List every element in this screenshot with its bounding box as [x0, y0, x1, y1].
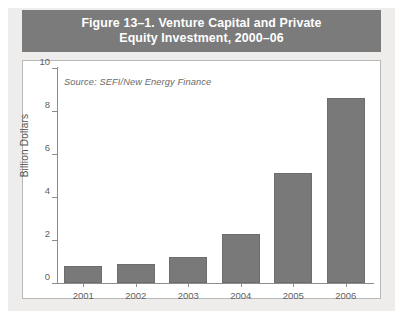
x-tick-label: 2001 [57, 290, 109, 301]
y-tick-label: 6 [26, 142, 50, 153]
x-tick-label: 2006 [320, 290, 372, 301]
x-tick-mark [346, 283, 347, 287]
bar [117, 264, 155, 283]
x-tick-mark [136, 283, 137, 287]
y-tick-mark [52, 283, 57, 284]
bar [64, 266, 102, 283]
x-tick-label: 2005 [267, 290, 319, 301]
figure-screenshot: Figure 13–1. Venture Capital and Private… [0, 0, 403, 326]
bar [169, 257, 207, 283]
figure-title-line-2: Equity Investment, 2000–06 [119, 31, 283, 46]
x-tick-mark [188, 283, 189, 287]
x-tick-mark [293, 283, 294, 287]
y-tick-label: 8 [26, 99, 50, 110]
x-tick-label: 2004 [215, 290, 267, 301]
y-tick-label: 0 [26, 271, 50, 282]
x-tick-label: 2003 [162, 290, 214, 301]
x-tick-label: 2002 [110, 290, 162, 301]
x-axis-line [57, 283, 374, 284]
figure-title-line-1: Figure 13–1. Venture Capital and Private [81, 16, 321, 31]
y-tick-label: 10 [26, 56, 50, 67]
bar [327, 98, 365, 283]
plot-area [57, 68, 372, 283]
y-tick-label: 2 [26, 228, 50, 239]
bar [222, 234, 260, 283]
x-tick-mark [241, 283, 242, 287]
bar [274, 173, 312, 283]
y-tick-label: 4 [26, 185, 50, 196]
x-tick-mark [83, 283, 84, 287]
figure-title-band: Figure 13–1. Venture Capital and Private… [22, 10, 381, 52]
